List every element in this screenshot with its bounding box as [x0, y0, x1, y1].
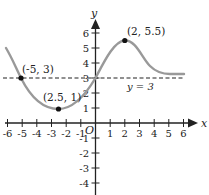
point-marker	[56, 106, 61, 111]
x-axis-arrow-icon	[188, 119, 198, 128]
x-tick-label: 2	[122, 128, 128, 139]
x-tick-label: -5	[17, 128, 27, 139]
origin-label: O	[85, 124, 94, 137]
x-tick-label: -6	[3, 128, 13, 139]
y-tick-label: -3	[79, 163, 89, 174]
y-tick-label: 4	[83, 58, 89, 69]
x-tick-label: 1	[107, 128, 113, 139]
x-axis-label: x	[201, 117, 208, 130]
function-graph: -6 -5 -4 -3 -2 -1 1 2 3 4 5 6 x 6 5 4	[0, 0, 209, 195]
x-tick-label: -4	[32, 128, 42, 139]
point-label: (2, 5.5)	[127, 25, 165, 37]
x-axis: -6 -5 -4 -3 -2 -1 1 2 3 4 5 6 x	[3, 117, 208, 139]
x-tick-label: 6	[180, 128, 186, 139]
y-tick-label: -2	[79, 148, 89, 159]
y-tick-label: 1	[83, 103, 89, 114]
point-label: (-5, 3)	[22, 63, 54, 75]
x-tick-label: -3	[47, 128, 57, 139]
y-tick-label: 5	[83, 43, 89, 54]
reference-line-label: y = 3	[126, 81, 154, 92]
y-tick-label: 6	[83, 28, 89, 39]
x-tick-label: 5	[166, 128, 172, 139]
x-tick-label: 3	[136, 128, 142, 139]
x-tick-label: -2	[61, 128, 71, 139]
y-axis-arrow-icon	[91, 19, 100, 29]
y-tick-label: -4	[79, 178, 89, 189]
y-axis: 6 5 4 3 2 1 -1 -2 -3 -4 y O	[79, 7, 100, 195]
point-marker	[18, 75, 23, 80]
x-tick-label: 4	[151, 128, 157, 139]
point-marker	[122, 38, 127, 43]
y-axis-label: y	[90, 7, 98, 20]
point-label: (2.5, 1)	[43, 91, 81, 103]
